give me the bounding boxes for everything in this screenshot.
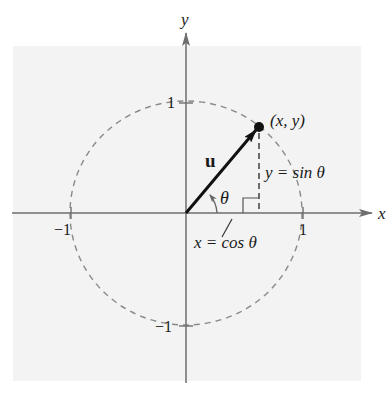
point-label: (x, y): [270, 111, 305, 130]
x-tick-label-1: 1: [299, 221, 307, 238]
x-tick-label-neg1: −1: [54, 221, 71, 238]
sin-label-text: y = sin θ: [263, 163, 325, 182]
angle-label: θ: [220, 188, 229, 208]
cos-label-text: x = cos θ: [193, 233, 257, 252]
point-on-circle: [254, 122, 264, 132]
vector-label: u: [205, 150, 216, 171]
sin-label: y = sin θ: [263, 163, 325, 182]
y-axis-label: y: [179, 10, 189, 29]
x-axis-label: x: [377, 204, 386, 223]
y-tick-label-1: 1: [167, 94, 175, 111]
y-tick-label-neg1: −1: [155, 318, 172, 335]
cos-label: x = cos θ: [193, 233, 257, 252]
unit-circle-diagram: x y −1 1 1 −1 (x, y) u θ y = sin θ x = c…: [0, 0, 390, 397]
